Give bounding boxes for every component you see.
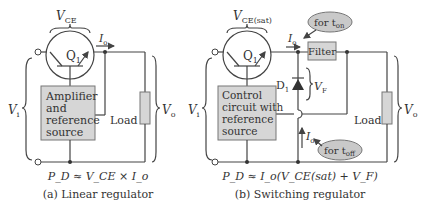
- linear-formula: P_D ≈ V_CE × I_o: [47, 170, 149, 183]
- vce-sat-label: VCE(sat): [233, 9, 272, 25]
- diode-d1: [292, 79, 304, 90]
- vce-label: VCE: [56, 9, 77, 25]
- switching-caption: (b) Switching regulator: [235, 188, 366, 201]
- regulator-diagram: Q1 VCE Io Amplifier and reference source…: [0, 0, 422, 212]
- svg-text:Vo: Vo: [404, 103, 418, 119]
- switching-formula: P_D ≈ I_o(V_CE(sat) + V_F): [221, 170, 377, 183]
- load-label: Load: [110, 114, 138, 127]
- load-resistor: [382, 92, 392, 124]
- linear-regulator: Q1 VCE Io Amplifier and reference source…: [8, 9, 176, 201]
- load-resistor: [140, 92, 150, 124]
- vf-label: VF: [314, 80, 327, 95]
- d1-label: D1: [276, 79, 289, 94]
- io-label: Io: [98, 32, 108, 47]
- svg-text:Io: Io: [287, 32, 297, 47]
- svg-text:Vi: Vi: [188, 103, 200, 119]
- svg-text:Filter: Filter: [308, 46, 336, 57]
- vo-label: Vo: [162, 103, 176, 119]
- svg-text:Load: Load: [354, 114, 382, 127]
- svg-text:Control circuit with: Control circuit with reference source: [222, 89, 287, 137]
- linear-caption: (a) Linear regulator: [43, 188, 154, 201]
- input-terminal-top: [35, 49, 41, 55]
- vi-label: Vi: [8, 103, 20, 119]
- svg-text:Io: Io: [305, 130, 315, 145]
- switching-regulator: Q1 VCE(sat) Io for ton D1 VF Filter Cont…: [188, 9, 418, 201]
